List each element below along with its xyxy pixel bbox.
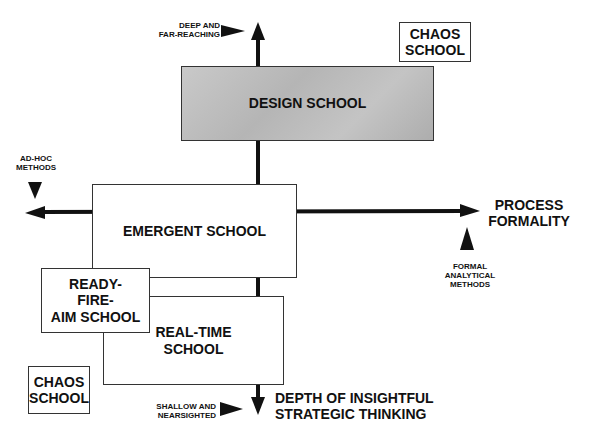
depth-strategic-thinking-title: DEPTH OF INSIGHTFUL STRATEGIC THINKING (275, 390, 455, 422)
chaos-school-bottom-label: CHAOS SCHOOL (29, 374, 89, 406)
pointer-right-top-icon (221, 25, 245, 37)
emergent-school-label: EMERGENT SCHOOL (123, 223, 266, 239)
ready-fire-aim-school-label: READY- FIRE- AIM SCHOOL (51, 276, 140, 324)
shallow-nearsighted-label: SHALLOW AND NEARSIGHTED (130, 402, 216, 420)
chaos-school-top-box: CHAOS SCHOOL (399, 22, 471, 62)
process-formality-title: PROCESS FORMALITY (484, 197, 574, 229)
formal-analytical-methods-label: FORMAL ANALYTICAL METHODS (437, 262, 503, 290)
arrow-down-icon (251, 397, 265, 415)
chaos-school-bottom-box: CHAOS SCHOOL (28, 366, 90, 414)
emergent-school-box: EMERGENT SCHOOL (92, 184, 297, 278)
arrow-up-icon (251, 22, 265, 40)
ready-fire-aim-school-box: READY- FIRE- AIM SCHOOL (41, 268, 150, 333)
design-school-label: DESIGN SCHOOL (249, 95, 366, 111)
arrow-right-icon (460, 204, 480, 217)
chaos-school-top-label: CHAOS SCHOOL (405, 26, 465, 58)
pointer-down-left-icon (28, 182, 42, 199)
real-time-school-label: REAL-TIME SCHOOL (155, 324, 231, 356)
arrow-left-icon (25, 206, 45, 219)
pointer-up-right-icon (460, 227, 474, 250)
ad-hoc-methods-label: AD-HOC METHODS (14, 154, 58, 172)
design-school-box: DESIGN SCHOOL (181, 66, 434, 141)
pointer-right-bottom-icon (220, 402, 243, 416)
deep-far-reaching-label: DEEP AND FAR-REACHING (140, 21, 220, 39)
